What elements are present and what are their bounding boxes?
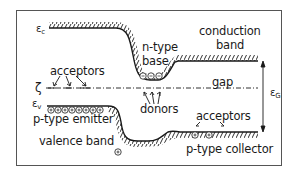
donors-label: donors bbox=[140, 104, 178, 116]
eg-label: εG bbox=[270, 88, 280, 100]
valence-band-label: valence band bbox=[39, 136, 114, 148]
gap-label: gap bbox=[212, 77, 233, 89]
n-type-label: n-type bbox=[142, 42, 178, 54]
energy-gap-arrow bbox=[261, 61, 265, 132]
p-type-emitter-label: p-type emitter bbox=[33, 114, 113, 126]
acceptors-left-label: acceptors bbox=[50, 66, 105, 78]
acceptors-right-label: acceptors bbox=[196, 111, 251, 123]
ec-label: εc bbox=[36, 24, 45, 36]
p-type-collector-label: p-type collector bbox=[186, 144, 273, 156]
base-label: base bbox=[142, 56, 169, 68]
conduction-band-label-line2: band bbox=[216, 40, 244, 52]
fermi-level-label: ζ bbox=[35, 82, 41, 94]
ev-label: εv bbox=[32, 99, 41, 111]
conduction-band-label-line1: conduction bbox=[199, 26, 261, 38]
band-diagram: εc εv ζ εG conduction band n-type base a… bbox=[0, 0, 298, 192]
